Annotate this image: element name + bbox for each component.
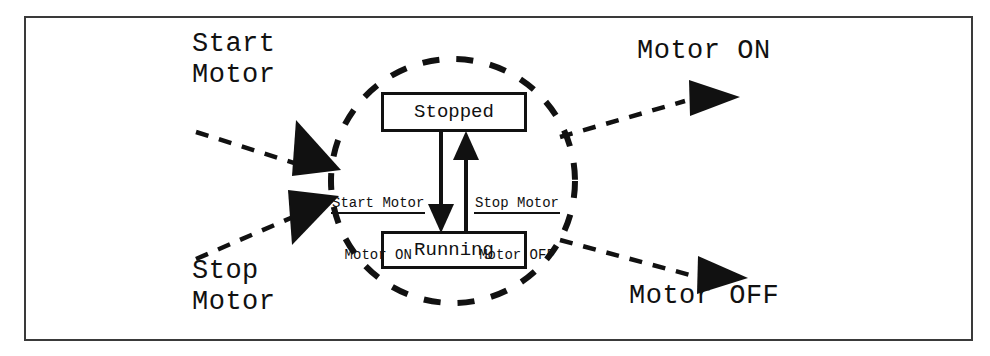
- external-label-stop-motor: Stop Motor: [192, 256, 276, 318]
- external-label-motor-on: Motor ON: [637, 36, 771, 67]
- transition-trigger-stop-motor: Stop Motor: [474, 195, 560, 214]
- external-label-motor-off: Motor OFF: [629, 281, 779, 312]
- transition-label-running-to-stopped: Stop Motor Motor OFF: [474, 163, 560, 295]
- stop-motor-input-arrow: [196, 190, 339, 259]
- motor-on-output-arrow: [560, 80, 740, 137]
- start-motor-input-arrow: [196, 120, 341, 176]
- transition-trigger-start-motor: Start Motor: [331, 195, 425, 214]
- state-box-stopped[interactable]: Stopped: [381, 92, 527, 132]
- transition-label-stopped-to-running: Start Motor Motor ON: [331, 163, 425, 295]
- transition-action-motor-on: Motor ON: [331, 246, 425, 263]
- state-label-stopped: Stopped: [414, 101, 494, 123]
- transition-stopped-to-running-arrow: [428, 131, 454, 233]
- diagram-root: Stopped Running Start Motor Motor ON Sto…: [0, 0, 990, 356]
- external-label-start-motor: Start Motor: [192, 29, 276, 91]
- transition-action-motor-off: Motor OFF: [474, 246, 560, 263]
